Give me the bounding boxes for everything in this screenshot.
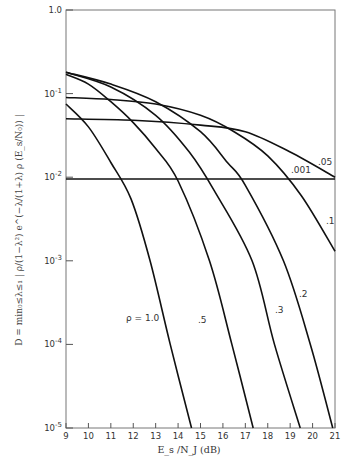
curve-labels: ρ = 1.0.5.3.2.1.05.001 <box>126 157 335 325</box>
x-tick-label: 13 <box>150 431 161 441</box>
x-tick-label: 10 <box>83 431 94 441</box>
curve-label: .2 <box>299 289 308 299</box>
curve-label: .05 <box>318 157 332 167</box>
x-tick-label: 11 <box>105 431 116 441</box>
chart-canvas: 91011121314151617181920211.010-110-210-3… <box>0 0 348 460</box>
x-tick-label: 9 <box>63 431 68 441</box>
plot-border <box>66 10 335 428</box>
curve-label: .001 <box>291 165 311 175</box>
x-tick-label: 19 <box>285 431 296 441</box>
plot-frame <box>66 10 335 428</box>
curve-label: .1 <box>326 216 335 226</box>
x-tick-label: 20 <box>307 431 318 441</box>
x-tick-label: 17 <box>240 431 251 441</box>
x-tick-label: 21 <box>330 431 341 441</box>
curve-label: ρ = 1.0 <box>126 313 160 323</box>
y-tick-label: 10-1 <box>44 87 62 99</box>
y-tick-label: 10-5 <box>44 421 62 433</box>
x-tick-label: 12 <box>128 431 139 441</box>
y-axis-label: D = min₀≤λ≤₁ | ρ/(1−λ²) e^(−λ/(1+λ) ρ (E… <box>14 114 24 346</box>
y-tick-label: 10-4 <box>44 337 62 349</box>
data-curves <box>66 72 335 428</box>
x-tick-label: 14 <box>173 431 184 441</box>
curve-label: .5 <box>198 315 207 325</box>
curve-3 <box>66 72 300 428</box>
x-axis-label: E_s /N_J (dB) <box>0 444 348 455</box>
axis-ticks: 91011121314151617181920211.010-110-210-3… <box>44 5 340 441</box>
x-tick-label: 18 <box>262 431 273 441</box>
x-tick-label: 16 <box>218 431 229 441</box>
y-tick-label: 10-2 <box>44 170 62 182</box>
curve-label: .3 <box>275 305 284 315</box>
y-axis-label-container: D = min₀≤λ≤₁ | ρ/(1−λ²) e^(−λ/(1+λ) ρ (E… <box>2 110 36 350</box>
y-tick-label: 10-3 <box>44 254 62 266</box>
x-tick-label: 15 <box>195 431 206 441</box>
curve-10 <box>66 104 192 428</box>
y-tick-label: 1.0 <box>48 5 62 15</box>
